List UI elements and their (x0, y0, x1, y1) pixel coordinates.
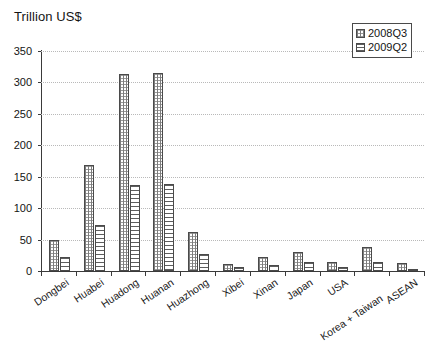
y-tick-label-0: 0 (26, 265, 38, 277)
bar-huabei-2009Q2 (95, 225, 105, 271)
y-tick-label-50: 50 (20, 234, 38, 246)
bar-korea-taiwan-2008Q3 (362, 247, 372, 271)
bars-layer (41, 51, 424, 271)
bar-huadong-2008Q3 (119, 74, 129, 271)
y-tick-label-300: 300 (14, 76, 38, 88)
legend-item-2008Q3: 2008Q3 (356, 26, 407, 40)
x-label-huadong: Huadong (99, 276, 141, 310)
bar-xinan-2008Q3 (258, 257, 268, 271)
chart-title: Trillion US$ (14, 9, 82, 24)
x-label-japan: Japan (284, 276, 314, 302)
y-axis-ticks: 050100150200250300350 (0, 51, 38, 271)
legend-label-2009Q2: 2009Q2 (368, 41, 407, 54)
x-label-xinan: Xinan (251, 276, 280, 301)
chart-legend: 2008Q32009Q2 (352, 23, 412, 58)
bar-huadong-2009Q2 (130, 185, 140, 271)
x-axis-labels: DongbeiHuabeiHuadongHuananHuazhongXibeiX… (41, 276, 425, 356)
bar-huanan-2008Q3 (153, 73, 163, 271)
x-label-asean: ASEAN (383, 276, 419, 306)
bar-huazhong-2008Q3 (188, 232, 198, 271)
bar-japan-2008Q3 (293, 252, 303, 271)
plot-area (41, 51, 424, 271)
bar-dongbei-2009Q2 (60, 257, 70, 271)
bar-asean-2008Q3 (397, 263, 407, 271)
y-tick-label-350: 350 (14, 45, 38, 57)
bar-huabei-2008Q3 (84, 165, 94, 271)
y-tick-label-100: 100 (14, 202, 38, 214)
x-label-xibei: Xibei (219, 276, 245, 299)
legend-swatch-icon-2008Q3 (356, 29, 365, 38)
bar-xibei-2008Q3 (223, 264, 233, 271)
y-tick-label-250: 250 (14, 108, 38, 120)
y-tick-label-150: 150 (14, 171, 38, 183)
bar-japan-2009Q2 (304, 262, 314, 271)
x-label-korea-taiwan: Korea + Taiwan (318, 292, 385, 342)
x-label-dongbei: Dongbei (32, 276, 71, 308)
bar-huazhong-2009Q2 (199, 254, 209, 271)
bar-usa-2008Q3 (327, 262, 337, 271)
legend-label-2008Q3: 2008Q3 (368, 27, 407, 40)
bar-dongbei-2008Q3 (49, 240, 59, 271)
bar-chart: Trillion US$ 050100150200250300350 Dongb… (0, 0, 434, 357)
x-label-usa: USA (325, 276, 350, 298)
y-tick-label-200: 200 (14, 139, 38, 151)
legend-swatch-icon-2009Q2 (356, 43, 365, 52)
bar-huanan-2009Q2 (164, 184, 174, 271)
legend-item-2009Q2: 2009Q2 (356, 40, 407, 54)
bar-korea-taiwan-2009Q2 (373, 262, 383, 271)
